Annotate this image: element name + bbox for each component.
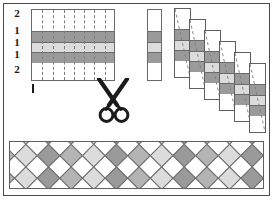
woven-braid-panel bbox=[9, 141, 264, 189]
cut-line-2 bbox=[64, 10, 65, 80]
row-label-4: 2 bbox=[8, 64, 26, 75]
cascade-diagonal-4 bbox=[235, 53, 250, 121]
cascade-diagonal-1 bbox=[190, 20, 205, 88]
grid-band-2 bbox=[32, 42, 114, 52]
strip-cascade bbox=[174, 8, 270, 136]
row-label-0: 2 bbox=[8, 8, 26, 19]
grid-band-0 bbox=[32, 10, 114, 31]
single-strip-band-0 bbox=[148, 10, 161, 31]
cascade-diagonal-0 bbox=[175, 9, 190, 77]
grid-band-1 bbox=[32, 31, 114, 42]
row-label-1: 1 bbox=[8, 25, 26, 36]
single-cut-strip bbox=[147, 9, 162, 81]
single-strip-band-1 bbox=[148, 31, 161, 42]
grid-base-tick bbox=[32, 84, 34, 93]
cut-line-6 bbox=[105, 10, 106, 80]
cut-line-5 bbox=[94, 10, 95, 80]
grid-band-3 bbox=[32, 52, 114, 63]
cascade-diagonal-5 bbox=[250, 64, 265, 132]
braid-weave bbox=[9, 141, 264, 189]
single-strip-band-4 bbox=[148, 63, 161, 81]
row-label-column: 21112 bbox=[8, 8, 26, 82]
scissors-icon bbox=[93, 78, 135, 124]
cut-line-1 bbox=[53, 10, 54, 80]
cut-line-3 bbox=[74, 10, 75, 80]
single-strip-band-3 bbox=[148, 52, 161, 63]
single-strip-band-2 bbox=[148, 42, 161, 52]
cascade-strip-5 bbox=[249, 63, 266, 133]
row-label-3: 1 bbox=[8, 49, 26, 60]
cascade-diagonal-3 bbox=[220, 42, 235, 110]
cascade-diagonal-2 bbox=[205, 31, 220, 99]
cut-line-0 bbox=[42, 10, 43, 80]
cut-line-4 bbox=[84, 10, 85, 80]
figure-canvas: 21112 bbox=[0, 0, 275, 201]
row-label-2: 1 bbox=[8, 37, 26, 48]
source-grid bbox=[31, 9, 115, 81]
